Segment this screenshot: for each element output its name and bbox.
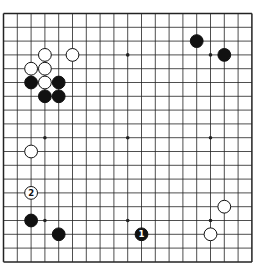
star-point: [126, 53, 130, 57]
star-point: [209, 136, 213, 140]
star-point: [43, 136, 47, 140]
black-stone: [52, 90, 65, 103]
black-stone: [52, 228, 65, 241]
go-board: 21: [0, 0, 256, 266]
white-stone: [218, 200, 231, 213]
black-stone: [218, 49, 231, 62]
black-stone: [25, 214, 38, 227]
move-number: 1: [139, 229, 145, 239]
white-stone: [66, 49, 79, 62]
star-point: [209, 219, 213, 223]
white-stone: [204, 228, 217, 241]
star-point: [126, 219, 130, 223]
black-stone: [39, 90, 52, 103]
star-point: [126, 136, 130, 140]
white-stone: [39, 76, 52, 89]
star-point: [209, 53, 213, 57]
white-stone: [25, 62, 38, 75]
move-number: 2: [28, 188, 34, 198]
star-point: [43, 219, 47, 223]
white-stone: [25, 145, 38, 158]
black-stone: [52, 76, 65, 89]
white-stone: [39, 62, 52, 75]
white-stone: [39, 49, 52, 62]
black-stone: [25, 76, 38, 89]
black-stone: [190, 35, 203, 48]
